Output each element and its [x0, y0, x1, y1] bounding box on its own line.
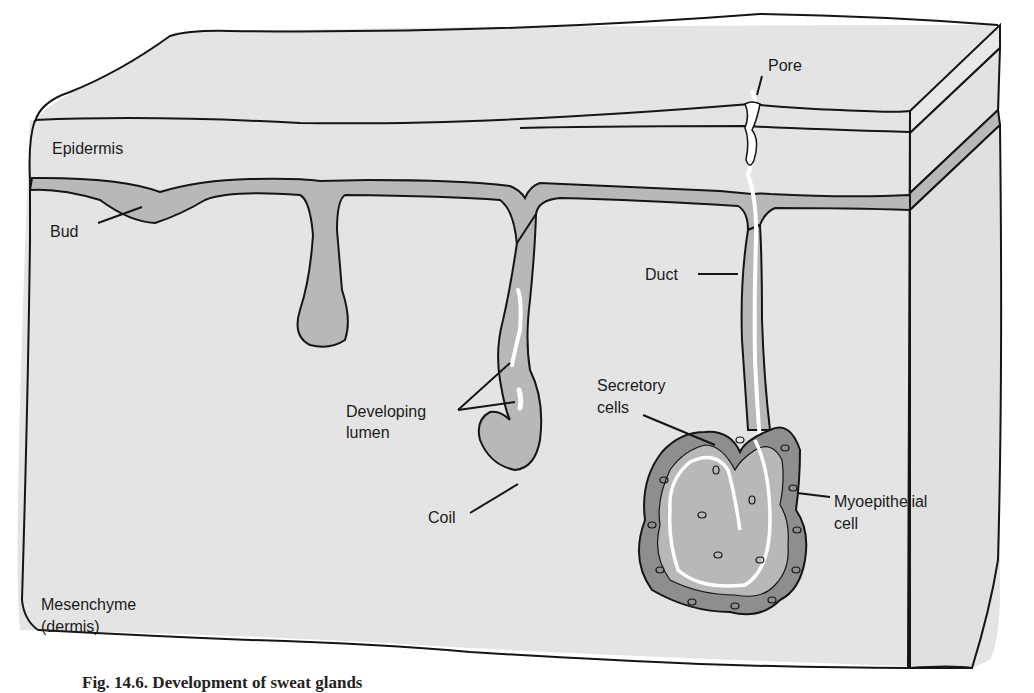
developing-lumen-2: [519, 390, 521, 408]
label-secretory-1: Secretory: [597, 376, 665, 395]
label-pore: Pore: [768, 56, 802, 75]
label-duct: Duct: [645, 265, 678, 284]
label-myoepithelial-1: Myoepithelial: [834, 492, 927, 511]
label-mesenchyme-2: (dermis): [41, 617, 100, 636]
label-mesenchyme-1: Mesenchyme: [41, 595, 136, 614]
label-myoepithelial-2: cell: [834, 514, 858, 533]
label-developing-lumen-2: lumen: [346, 423, 390, 442]
figure-caption: Fig. 14.6. Development of sweat glands: [82, 673, 362, 693]
label-secretory-2: cells: [597, 398, 629, 417]
label-developing-lumen-1: Developing: [346, 402, 426, 421]
label-bud: Bud: [50, 222, 78, 241]
label-epidermis: Epidermis: [52, 139, 123, 158]
right-dermis-face: [910, 125, 1001, 668]
label-coil: Coil: [428, 508, 456, 527]
